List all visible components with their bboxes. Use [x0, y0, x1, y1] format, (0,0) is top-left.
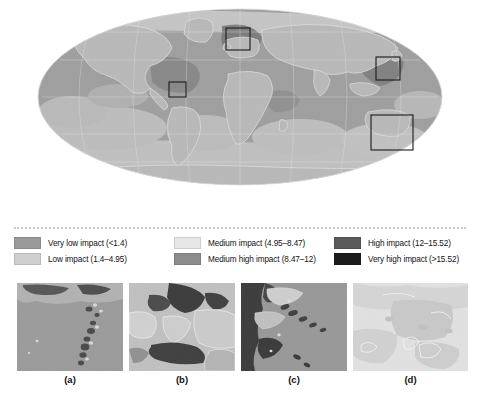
legend-item-high-impact: High impact (12–15.52) — [334, 235, 466, 251]
legend-item-medium-impact: Medium impact (4.95–8.47) — [174, 235, 334, 251]
detail-panel-d[interactable] — [353, 283, 468, 371]
legend-item-medium-high-impact: Medium high impact (8.47–12) — [174, 251, 334, 267]
legend-swatch-low-impact — [14, 253, 41, 265]
panel-caption-c: (c) — [241, 374, 347, 385]
impact-legend: Very low impact (<1.4) Medium impact (4.… — [14, 235, 466, 267]
detail-panel-c[interactable] — [241, 283, 347, 371]
world-map-svg — [0, 0, 479, 222]
legend-label-low-impact: Low impact (1.4–4.95) — [48, 255, 127, 264]
detail-panel-b[interactable] — [129, 283, 235, 371]
panel-caption-d: (d) — [353, 374, 468, 385]
detail-panel-c-image — [241, 283, 347, 371]
legend-swatch-medium-impact — [174, 237, 201, 249]
legend-item-low-impact: Low impact (1.4–4.95) — [14, 251, 174, 267]
legend-label-very-low-impact: Very low impact (<1.4) — [48, 239, 127, 248]
legend-divider — [14, 227, 466, 231]
legend-swatch-medium-high-impact — [174, 253, 201, 265]
detail-panel-a[interactable] — [17, 283, 123, 371]
legend-label-medium-high-impact: Medium high impact (8.47–12) — [208, 255, 316, 264]
detail-panels — [17, 283, 468, 371]
legend-item-very-low-impact: Very low impact (<1.4) — [14, 235, 174, 251]
map-raster-texture — [0, 0, 479, 222]
detail-panel-a-image — [17, 283, 123, 371]
legend-label-very-high-impact: Very high impact (>15.52) — [368, 255, 459, 264]
panel-captions: (a) (b) (c) (d) — [17, 374, 468, 392]
panel-caption-a: (a) — [17, 374, 123, 385]
panel-caption-b: (b) — [129, 374, 235, 385]
legend-swatch-very-low-impact — [14, 237, 41, 249]
detail-panel-b-image — [129, 283, 235, 371]
legend-label-high-impact: High impact (12–15.52) — [368, 239, 451, 248]
detail-panel-d-image — [353, 283, 468, 371]
legend-swatch-very-high-impact — [334, 253, 361, 265]
map-globe — [0, 0, 479, 222]
legend-label-medium-impact: Medium impact (4.95–8.47) — [208, 239, 305, 248]
impact-map-figure: Very low impact (<1.4) Medium impact (4.… — [0, 0, 479, 406]
world-map-panel — [0, 0, 479, 222]
legend-item-very-high-impact: Very high impact (>15.52) — [334, 251, 466, 267]
legend-swatch-high-impact — [334, 237, 361, 249]
